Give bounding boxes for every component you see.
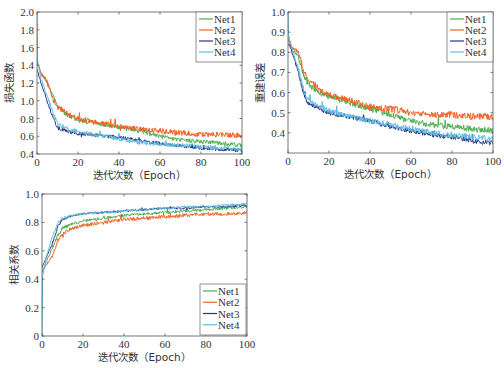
series-line-net3 xyxy=(37,69,242,152)
legend-label-net4: Net4 xyxy=(214,46,236,58)
x-tick-label: 20 xyxy=(324,155,336,167)
y-tick-label: 0.6 xyxy=(20,130,34,142)
y-tick-label: 0.8 xyxy=(20,113,34,125)
y-tick-label: 0 xyxy=(34,330,40,342)
legend-label-net2: Net2 xyxy=(218,296,239,308)
legend: Net1Net2Net3Net4 xyxy=(196,12,242,62)
y-tick-label: 1.0 xyxy=(271,6,285,18)
x-tick-label: 60 xyxy=(155,156,167,168)
x-tick-label: 80 xyxy=(447,155,459,167)
y-tick-label: 1.4 xyxy=(20,59,34,71)
x-axis-label: 迭代次数（Epoch） xyxy=(93,169,185,181)
y-tick-label: 0.2 xyxy=(25,302,39,314)
series-line-net2 xyxy=(37,63,242,138)
y-tick-label: 0.9 xyxy=(271,26,285,38)
chart-reconstruction-error: 0204060801000.40.50.60.70.80.91.0迭代次数（Ep… xyxy=(254,6,502,180)
legend-label-net3: Net3 xyxy=(218,308,240,320)
y-tick-label: 0.6 xyxy=(25,245,39,257)
x-tick-label: 20 xyxy=(73,156,85,168)
legend-label-net4: Net4 xyxy=(465,46,487,58)
x-tick-label: 100 xyxy=(234,156,251,168)
y-axis-label: 相关系数 xyxy=(8,244,20,285)
y-tick-label: 1.0 xyxy=(25,188,39,200)
x-tick-label: 0 xyxy=(34,156,40,168)
x-tick-label: 40 xyxy=(114,156,126,168)
legend: Net1Net2Net3Net4 xyxy=(200,284,246,335)
y-tick-label: 1.2 xyxy=(20,77,34,89)
x-axis-label: 迭代次数（Epoch） xyxy=(344,168,436,180)
y-tick-label: 0.6 xyxy=(271,87,285,99)
y-tick-label: 1.8 xyxy=(20,24,34,36)
x-tick-label: 40 xyxy=(365,155,377,167)
y-tick-label: 2.0 xyxy=(20,6,34,18)
x-tick-label: 60 xyxy=(406,155,418,167)
y-tick-label: 0.4 xyxy=(25,273,39,285)
legend: Net1Net2Net3Net4 xyxy=(447,12,493,62)
x-tick-label: 20 xyxy=(78,338,90,350)
y-tick-label: 0.8 xyxy=(271,46,285,58)
chart-correlation-coefficient: 02040608010000.20.40.60.81.0迭代次数（Epoch）相… xyxy=(8,188,256,363)
legend-label-net1: Net1 xyxy=(218,285,239,297)
y-tick-label: 0.8 xyxy=(25,216,39,228)
figure-canvas: 0204060801000.40.60.81.01.21.41.61.82.0迭… xyxy=(0,0,504,368)
x-tick-label: 100 xyxy=(485,155,502,167)
chart-loss: 0204060801000.40.60.81.01.21.41.61.82.0迭… xyxy=(3,6,251,181)
y-tick-label: 1.0 xyxy=(20,95,34,107)
y-tick-label: 0.4 xyxy=(271,127,285,139)
y-axis-label: 重建误差 xyxy=(254,63,266,103)
y-tick-label: 0.7 xyxy=(271,66,285,78)
y-tick-label: 0.4 xyxy=(20,148,34,160)
y-tick-label: 0.5 xyxy=(271,107,285,119)
x-axis-label: 迭代次数（Epoch） xyxy=(98,351,190,363)
x-tick-label: 40 xyxy=(119,338,131,350)
legend-label-net4: Net4 xyxy=(218,319,240,331)
x-tick-label: 60 xyxy=(160,338,172,350)
x-tick-label: 80 xyxy=(196,156,208,168)
y-axis-label: 损失函数 xyxy=(3,62,15,103)
x-tick-label: 100 xyxy=(239,338,256,350)
y-tick-label: 1.6 xyxy=(20,42,34,54)
x-tick-label: 80 xyxy=(201,338,213,350)
x-tick-label: 0 xyxy=(285,155,291,167)
x-tick-label: 0 xyxy=(39,338,45,350)
series-line-net2 xyxy=(42,211,247,272)
